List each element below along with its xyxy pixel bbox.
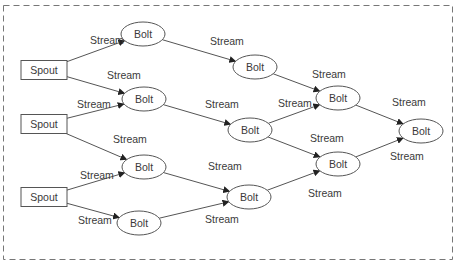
bolt-label: Bolt: [135, 161, 153, 173]
stream-label: Stream: [205, 213, 239, 225]
diagram-canvas: StreamStreamStreamStreamStreamStreamStre…: [0, 0, 457, 270]
bolt-label: Bolt: [134, 28, 152, 40]
stream-label: Stream: [392, 96, 426, 108]
stream-label: Stream: [90, 34, 124, 46]
bolt-node-boltH: Bolt: [316, 86, 360, 110]
spout-node-spout2: Spout: [21, 115, 67, 134]
spout-node-spout3: Spout: [21, 188, 67, 207]
stream-label: Stream: [208, 160, 242, 172]
stream-label: Stream: [310, 132, 344, 144]
bolt-label: Bolt: [329, 92, 347, 104]
bolt-node-boltG: Bolt: [227, 185, 271, 209]
bolt-node-boltC: Bolt: [122, 155, 166, 179]
bolt-node-boltD: Bolt: [117, 211, 161, 235]
bolt-label: Bolt: [240, 191, 258, 203]
stream-label: Stream: [113, 133, 147, 145]
stream-label: Stream: [80, 169, 114, 181]
spout-label: Spout: [30, 118, 58, 130]
spout-label: Spout: [30, 64, 58, 76]
stream-label: Stream: [78, 214, 112, 226]
stream-label: Stream: [278, 97, 312, 109]
bolt-label: Bolt: [135, 93, 153, 105]
bolt-node-boltF: Bolt: [228, 118, 272, 142]
bolt-node-boltJ: Bolt: [399, 119, 443, 143]
topology-diagram: StreamStreamStreamStreamStreamStreamStre…: [0, 0, 457, 270]
stream-label: Stream: [107, 69, 141, 81]
bolt-label: Bolt: [412, 125, 430, 137]
stream-label: Stream: [77, 98, 111, 110]
spout-label: Spout: [30, 191, 58, 203]
bolt-label: Bolt: [130, 217, 148, 229]
bolt-label: Bolt: [329, 158, 347, 170]
stream-label: Stream: [210, 35, 244, 47]
bolt-node-boltB: Bolt: [122, 87, 166, 111]
bolt-node-boltA: Bolt: [121, 22, 165, 46]
nodes-layer: SpoutSpoutSpoutBoltBoltBoltBoltBoltBoltB…: [21, 22, 443, 235]
bolt-node-boltI: Bolt: [316, 152, 360, 176]
stream-label: Stream: [205, 98, 239, 110]
stream-arrow-boltC-boltG: [163, 173, 229, 192]
stream-label: Stream: [308, 187, 342, 199]
spout-node-spout1: Spout: [21, 61, 67, 80]
bolt-node-boltE: Bolt: [233, 55, 277, 79]
stream-label: Stream: [312, 68, 346, 80]
bolt-label: Bolt: [241, 124, 259, 136]
stream-label: Stream: [390, 150, 424, 162]
bolt-label: Bolt: [246, 61, 264, 73]
